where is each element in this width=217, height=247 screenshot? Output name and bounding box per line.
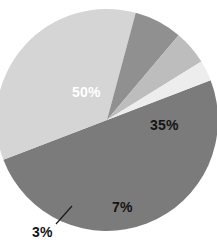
pie-chart-canvas — [0, 0, 217, 247]
pie-slice-label-35pct: 35% — [150, 118, 179, 132]
pie-slice-label-50pct: 50% — [72, 85, 101, 99]
pie-slice-label-3pct: 3% — [32, 225, 53, 239]
pie-chart-figure: 50%35%7%3% — [0, 0, 217, 247]
pie-slice-group — [0, 9, 217, 231]
pie-slice-label-7pct: 7% — [112, 200, 133, 214]
